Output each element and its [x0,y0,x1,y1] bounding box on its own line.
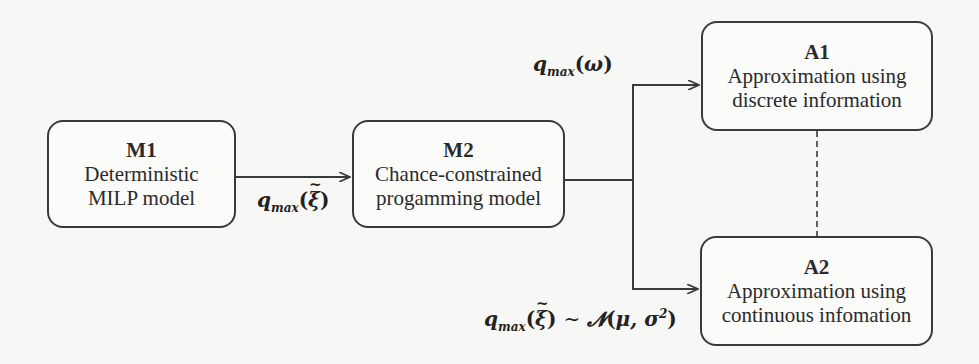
node-a1-line2: discrete information [732,88,902,112]
node-a2-line1: Approximation using [727,279,906,303]
node-a1-line1: Approximation using [727,64,906,88]
node-m2-line1: Chance-constrained [375,162,542,186]
node-m1-line2: MILP model [88,186,195,210]
node-a2: A2 Approximation using continuous infoma… [700,236,933,346]
node-a2-line2: continuous infomation [722,303,912,327]
node-m2: M2 Chance-constrained progamming model [352,120,565,228]
node-m2-line2: progamming model [376,186,541,210]
edge-label-m1-m2: qmax(ξ) [257,188,329,215]
node-a2-title: A2 [804,255,830,279]
node-m1-line1: Deterministic [84,162,198,186]
node-m2-title: M2 [443,138,473,162]
node-a1: A1 Approximation using discrete informat… [701,21,933,131]
node-m1-title: M1 [126,138,156,162]
node-a1-title: A1 [804,40,830,64]
node-m1: M1 Deterministic MILP model [47,120,236,228]
edge-label-to-a2: qmax(ξ) ∼ 𝓝(μ, σ2) [484,307,677,334]
edge-label-to-a1: qmax(ω) [533,52,613,79]
